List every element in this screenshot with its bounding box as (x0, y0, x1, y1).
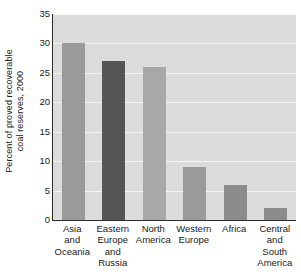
y-axis-title-line-2: coal reserves, 2000 (15, 49, 26, 172)
x-axis-tick-labels: AsiaandOceaniaEasternEuropeandRussiaNort… (52, 223, 295, 278)
bar (102, 61, 125, 220)
y-tick-label: 5 (45, 186, 50, 196)
y-axis-tick-labels: 05101520253035 (28, 8, 50, 222)
x-tick-label: NorthAmerica (133, 223, 174, 246)
bar (264, 208, 287, 220)
x-tick-label-line: and (255, 234, 296, 245)
x-tick-label-line: Africa (214, 223, 255, 234)
x-tick-label-line: Europe (93, 234, 134, 245)
y-tick-label: 0 (45, 215, 50, 225)
y-tick-label: 30 (39, 38, 50, 48)
bar (183, 167, 206, 220)
y-tick-label: 10 (39, 156, 50, 166)
bar (224, 185, 247, 220)
x-tick-label-line: Western (174, 223, 215, 234)
x-tick-label: AsiaandOceania (52, 223, 93, 257)
x-tick-label-line: Asia (52, 223, 93, 234)
x-tick-label-line: Central (255, 223, 296, 234)
bar (143, 67, 166, 220)
x-tick-label: WesternEurope (174, 223, 215, 246)
y-axis-title: Percent of proved recoverable coal reser… (0, 0, 30, 222)
x-tick-label-line: Europe (174, 234, 215, 245)
y-tick-label: 20 (39, 97, 50, 107)
x-tick-label-line: and (52, 234, 93, 245)
y-tick-label: 25 (39, 68, 50, 78)
x-tick-label: EasternEuropeandRussia (93, 223, 134, 269)
x-tick-label-line: Eastern (93, 223, 134, 234)
x-tick-label-line: and (93, 246, 134, 257)
y-axis-title-line-1: Percent of proved recoverable (4, 49, 15, 172)
x-tick-label-line: America (255, 257, 296, 268)
x-tick-label: Africa (214, 223, 255, 234)
x-tick-label-line: North (133, 223, 174, 234)
x-tick-label-line: America (133, 234, 174, 245)
x-tick-label: CentralandSouthAmerica (255, 223, 296, 269)
x-tick-label-line: Russia (93, 257, 134, 268)
y-tick-label: 35 (39, 9, 50, 19)
y-tick-label: 15 (39, 127, 50, 137)
bars-layer (53, 14, 296, 220)
x-tick-label-line: Oceania (52, 246, 93, 257)
bar (62, 43, 85, 220)
x-tick-label-line: South (255, 246, 296, 257)
plot-area (52, 14, 296, 221)
bar-chart-figure: Percent of proved recoverable coal reser… (0, 0, 301, 278)
